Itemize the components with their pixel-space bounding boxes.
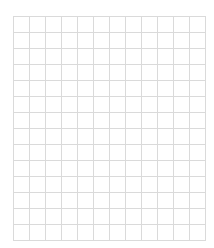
grid-canvas	[0, 0, 214, 248]
grid-bottom-border	[13, 240, 206, 241]
grid-right-border	[205, 16, 206, 241]
graph-paper-grid	[13, 16, 205, 240]
